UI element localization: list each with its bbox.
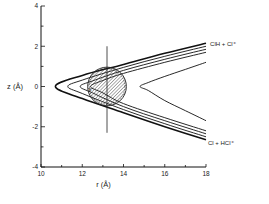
x-axis-label: r (Å) xyxy=(96,180,111,189)
channel-label: Cl + HCl⁺ xyxy=(208,140,234,146)
overlays xyxy=(88,46,127,133)
y-tick-label: 2 xyxy=(34,43,38,50)
y-tick-label: -2 xyxy=(32,123,38,130)
x-tick-label: 10 xyxy=(37,170,45,177)
contour-5-line xyxy=(140,62,206,120)
shaded-circle xyxy=(88,67,127,106)
channel-label: ClH + Cl⁺ xyxy=(210,41,236,47)
contours xyxy=(55,43,206,140)
x-tick-label: 18 xyxy=(202,170,210,177)
contour-chart: 1012141618420-2-4r (Å)z (Å)ClH + Cl⁺Cl +… xyxy=(0,0,269,204)
marker-x-label: x xyxy=(88,86,91,92)
y-tick-label: 4 xyxy=(34,2,38,9)
x-tick-label: 14 xyxy=(120,170,128,177)
y-tick-label: 0 xyxy=(34,83,38,90)
y-tick-label: -4 xyxy=(32,163,38,170)
x-tick-label: 12 xyxy=(79,170,87,177)
y-axis-label: z (Å) xyxy=(7,82,23,91)
x-tick-label: 16 xyxy=(161,170,169,177)
